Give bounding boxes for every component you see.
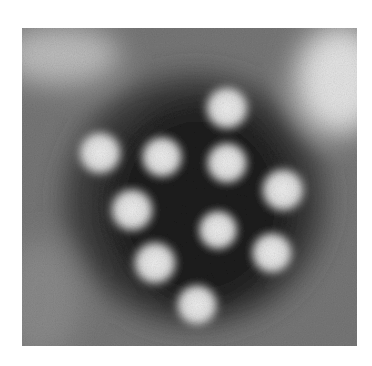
virus-micrograph	[22, 28, 357, 346]
virus-particle	[201, 82, 253, 134]
virus-particle	[74, 127, 126, 179]
virus-particle	[172, 280, 222, 330]
virus-particle	[247, 228, 297, 278]
virus-particle	[257, 164, 309, 216]
virus-particle	[137, 132, 187, 182]
virus-particle	[129, 237, 181, 289]
virus-particle	[194, 206, 242, 254]
virus-particle	[202, 138, 252, 188]
virus-particle	[106, 184, 158, 236]
